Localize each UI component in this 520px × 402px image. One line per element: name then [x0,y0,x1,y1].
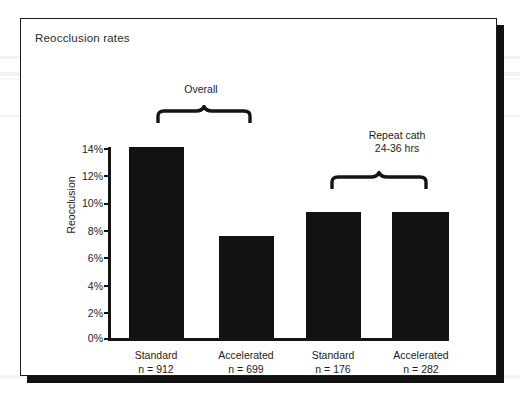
x-category-n: n = 282 [366,362,476,376]
bar-accelerated-overall [219,236,274,338]
x-axis-line [108,338,449,341]
bar-standard-repeat [306,212,361,338]
y-tick-label: 8% [69,225,103,237]
x-category-name: Accelerated [218,349,273,361]
x-category-name: Standard [135,349,178,361]
bar-standard-overall [129,147,184,338]
annotation-line: Repeat cath [317,129,477,142]
y-tick-label: 14% [69,143,103,155]
y-tick-label: 0% [69,332,103,344]
x-category-label-3: Accelerated n = 282 [366,348,476,376]
y-tick-label: 2% [69,307,103,319]
curly-brace-down-icon [329,171,429,189]
y-tick-label: 12% [69,170,103,182]
bar-chart: Reocclusion 14% 12% 10% 8% 6% 4% 2% 0% S… [21,19,498,377]
annotation-overall-text: Overall [121,83,281,96]
figure-card: Reocclusion rates Reocclusion 14% 12% 10… [20,18,497,376]
x-category-name: Accelerated [393,349,448,361]
annotation-line: 24-36 hrs [317,142,477,155]
y-tick-label: 10% [69,197,103,209]
annotation-repeat-cath-text: Repeat cath 24-36 hrs [317,129,477,155]
y-tick-label: 6% [69,252,103,264]
y-axis-line [108,147,111,340]
y-tick-label: 4% [69,280,103,292]
curly-brace-down-icon [155,105,253,123]
x-category-name: Standard [312,349,355,361]
bar-accelerated-repeat [392,212,449,338]
annotation-line: Overall [121,83,281,96]
